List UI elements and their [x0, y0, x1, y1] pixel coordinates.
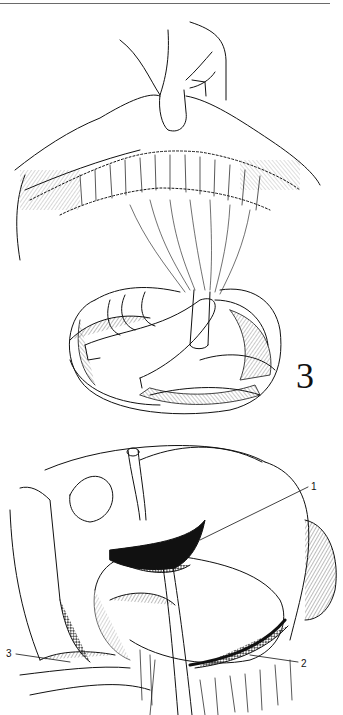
mesentery-lift-drawing	[0, 8, 343, 428]
figure-number: 3	[296, 358, 314, 394]
header-rule	[0, 3, 330, 4]
figure-top-illustration	[0, 8, 343, 428]
abdominal-operative-drawing	[0, 428, 343, 715]
callout-label-2: 2	[301, 659, 307, 669]
callout-label-3: 3	[6, 649, 12, 659]
callout-label-1: 1	[311, 482, 317, 492]
header-page-mark: ’’	[265, 0, 268, 3]
figure-bottom-illustration	[0, 428, 343, 715]
